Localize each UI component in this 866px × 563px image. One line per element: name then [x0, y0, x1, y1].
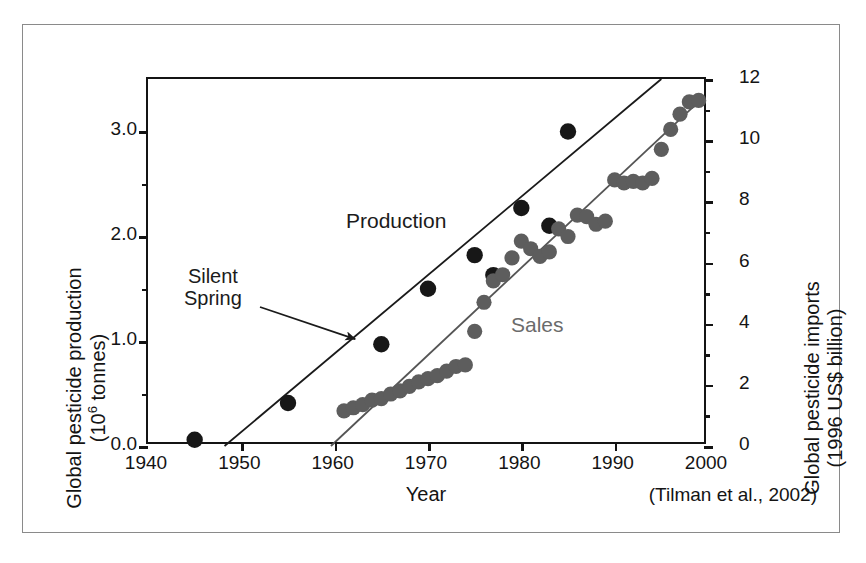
annotation-silent-spring-line2: Spring [184, 287, 242, 309]
y-left-tick-1.0 [139, 341, 148, 344]
sales-data-point [458, 357, 473, 372]
y-axis-left-title-line2: (106 tonnes) [86, 208, 110, 563]
silent-spring-arrow [260, 307, 355, 339]
chart-canvas [148, 79, 708, 446]
y-right-tick-label-12: 12 [739, 66, 760, 88]
production-data-point [186, 432, 202, 448]
y-right-minor-tick-7 [704, 232, 710, 235]
y-axis-left-title: Global pesticide production (106 tonnes) [63, 208, 110, 563]
x-tick-label-1980: 1980 [498, 452, 540, 474]
y-right-tick-label-0: 0 [739, 433, 750, 455]
sales-data-point [476, 295, 491, 310]
sales-data-point [495, 267, 510, 282]
production-trend-line [225, 79, 662, 446]
x-tick-label-1940: 1940 [125, 452, 167, 474]
y-left-tick-label-2.0: 2.0 [111, 223, 137, 245]
x-tick-label-1970: 1970 [405, 452, 447, 474]
y-right-tick-label-8: 8 [739, 188, 750, 210]
sales-data-point [560, 229, 575, 244]
y-left-tick-label-1.0: 1.0 [111, 328, 137, 350]
y-left-tick-2.0 [139, 236, 148, 239]
y-axis-right-title: Global pesticide imports (1996 US$ billi… [801, 208, 847, 563]
y-right-tick-4 [704, 324, 713, 327]
x-axis-title: Year [146, 483, 706, 506]
y-right-tick-label-2: 2 [739, 372, 750, 394]
x-tick-label-1950: 1950 [218, 452, 260, 474]
y-right-tick-0 [704, 446, 713, 449]
production-data-point [420, 281, 436, 297]
y-right-minor-tick-9 [704, 171, 710, 174]
production-data-point [280, 395, 296, 411]
y-right-tick-2 [704, 385, 713, 388]
y-right-minor-tick-1 [704, 415, 710, 418]
x-tick-label-2000: 2000 [685, 452, 727, 474]
y-axis-right-labels: 024681012 [739, 77, 779, 444]
annotation-silent-spring-line1: Silent [184, 265, 242, 287]
y-left-minor-tick-0.5 [142, 394, 148, 397]
sales-data-point [598, 214, 613, 229]
y-left-minor-tick-1.5 [142, 289, 148, 292]
y-axis-right-title-line1: Global pesticide imports [801, 208, 824, 563]
y-left-tick-3.0 [139, 131, 148, 134]
x-tick-1980 [521, 442, 524, 451]
sales-data-point [691, 93, 706, 108]
production-data-point [373, 336, 389, 352]
x-tick-1990 [615, 442, 618, 451]
y-right-tick-label-10: 10 [739, 127, 760, 149]
production-data-point [513, 200, 529, 216]
sales-data-point [504, 250, 519, 265]
y-right-tick-label-6: 6 [739, 250, 750, 272]
y-right-tick-label-4: 4 [739, 311, 750, 333]
figure-container: 0.01.02.03.0 024681012 19401950196019701… [22, 24, 840, 533]
citation-text: (Tilman et al., 2002) [649, 484, 817, 506]
y-right-tick-6 [704, 263, 713, 266]
production-data-point [466, 247, 482, 263]
y-right-tick-12 [704, 79, 713, 82]
x-tick-1960 [335, 442, 338, 451]
x-tick-label-1990: 1990 [592, 452, 634, 474]
y-right-minor-tick-3 [704, 354, 710, 357]
sales-data-point [663, 122, 678, 137]
annotation-silent-spring: Silent Spring [184, 265, 242, 309]
sales-data-point [654, 142, 669, 157]
y-left-tick-label-3.0: 3.0 [111, 118, 137, 140]
x-tick-1950 [241, 442, 244, 451]
annotation-sales: Sales [511, 313, 564, 337]
sales-data-point [644, 171, 659, 186]
y-right-tick-8 [704, 201, 713, 204]
x-tick-1970 [428, 442, 431, 451]
y-right-minor-tick-5 [704, 293, 710, 296]
plot-area: Production Sales Silent Spring [146, 77, 706, 444]
y-left-minor-tick-2.5 [142, 184, 148, 187]
annotation-production: Production [346, 209, 446, 233]
sales-data-point [672, 107, 687, 122]
y-left-tick-0.0 [139, 446, 148, 449]
sales-data-point [542, 244, 557, 259]
y-axis-right-title-line2: (1996 US$ billion) [824, 208, 847, 563]
production-data-point [560, 123, 576, 139]
y-axis-left-title-line1: Global pesticide production [63, 208, 86, 563]
y-right-minor-tick-11 [704, 110, 710, 113]
y-right-tick-10 [704, 140, 713, 143]
x-axis-labels: 1940195019601970198019902000 [146, 452, 706, 482]
x-tick-label-1960: 1960 [312, 452, 354, 474]
sales-data-point [467, 324, 482, 339]
